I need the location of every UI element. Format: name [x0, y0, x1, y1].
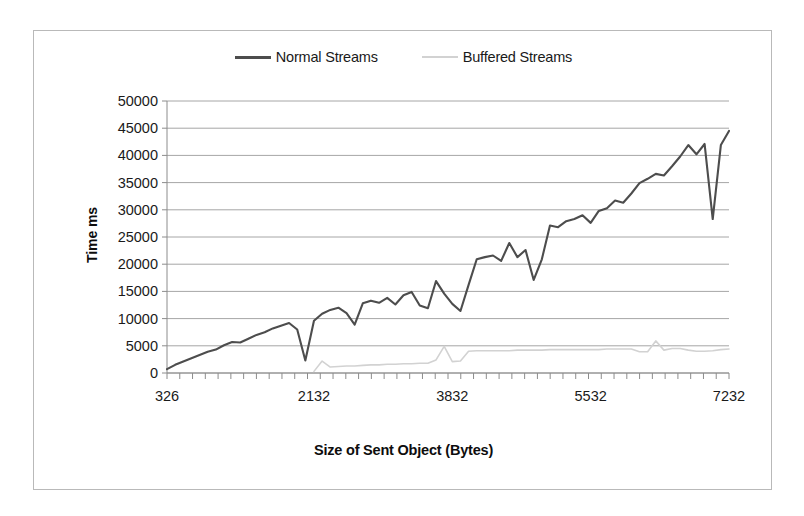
x-axis-tick-labels: 3262132383255327232 [155, 388, 745, 404]
series-line-normal-streams [167, 131, 729, 369]
y-axis-tick-label: 0 [150, 365, 158, 381]
y-axis-tick-labels: 0500010000150002000025000300003500040000… [118, 93, 158, 381]
y-axis-tick-label: 15000 [118, 283, 158, 299]
y-axis-tick-marks [162, 101, 167, 373]
y-axis-tick-label: 50000 [118, 93, 158, 109]
chart-container: Normal Streams Buffered Streams 05000100… [33, 30, 772, 490]
y-axis-tick-label: 25000 [118, 229, 158, 245]
y-axis-title: Time ms [84, 175, 100, 295]
gridlines [167, 101, 729, 373]
x-axis-tick-label: 326 [155, 388, 179, 404]
y-axis-tick-label: 20000 [118, 256, 158, 272]
x-axis-title: Size of Sent Object (Bytes) [34, 442, 773, 458]
y-axis-tick-label: 5000 [126, 338, 158, 354]
y-axis-tick-label: 45000 [118, 120, 158, 136]
x-axis-tick-marks [167, 373, 729, 379]
plot-area: 0500010000150002000025000300003500040000… [34, 31, 773, 491]
y-axis-tick-label: 40000 [118, 147, 158, 163]
y-axis-tick-label: 30000 [118, 202, 158, 218]
y-axis-tick-label: 35000 [118, 175, 158, 191]
data-series-lines [167, 131, 729, 371]
x-axis-tick-label: 3832 [436, 388, 468, 404]
y-axis-tick-label: 10000 [118, 311, 158, 327]
x-axis-tick-label: 5532 [575, 388, 607, 404]
x-axis-tick-label: 7232 [713, 388, 745, 404]
x-axis-tick-label: 2132 [298, 388, 330, 404]
